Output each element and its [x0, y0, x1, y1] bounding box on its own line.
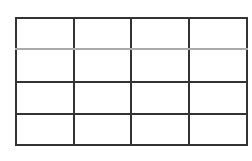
table-cell [190, 115, 246, 144]
table-cell [17, 83, 73, 113]
table-cell [17, 19, 73, 48]
table-cell [75, 115, 130, 144]
table-cell [75, 19, 130, 48]
table-cell [75, 50, 130, 81]
empty-table-grid [15, 17, 248, 146]
table-cell [132, 50, 188, 81]
table-cell [132, 83, 188, 113]
table-cell [17, 50, 73, 81]
table-cell [190, 19, 246, 48]
table-cell [132, 115, 188, 144]
table-cell [17, 115, 73, 144]
table-cell [190, 83, 246, 113]
table-cell [190, 50, 246, 81]
table-cell [132, 19, 188, 48]
grid-line-horizontal [15, 144, 248, 146]
table-cell [75, 83, 130, 113]
